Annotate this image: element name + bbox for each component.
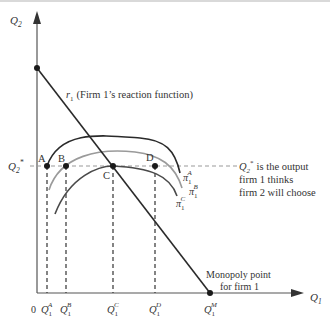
- point-a: A: [38, 153, 50, 169]
- svg-text:D: D: [146, 152, 154, 163]
- svg-text:C: C: [103, 170, 110, 181]
- reaction-intercept-dot: [34, 65, 40, 71]
- x-tick-qm: Q1M: [204, 301, 218, 318]
- isoprofit-label-b: π1B: [189, 183, 199, 200]
- diagram-canvas: Q2 Q1 0 Q2* Q2*is the output firm 1 thin…: [0, 0, 330, 324]
- x-axis: [37, 289, 304, 297]
- svg-text:A: A: [38, 153, 46, 164]
- svg-text:B: B: [58, 153, 65, 164]
- monopoly-point-dot: [207, 290, 213, 296]
- svg-text:firm 2 will choose: firm 2 will choose: [239, 187, 316, 198]
- x-tick-qb: Q1B: [60, 301, 72, 318]
- x-tick-qd: Q1D: [149, 301, 161, 318]
- svg-text:Q2*is the output: Q2*is the output: [239, 159, 309, 175]
- reaction-function-label: r1(Firm 1’s reaction function): [66, 89, 193, 103]
- svg-text:firm 1 thinks: firm 1 thinks: [239, 174, 293, 185]
- origin-label: 0: [31, 304, 36, 315]
- isoprofit-label-a: π1A: [183, 169, 193, 186]
- y-axis-arrow-icon: [33, 11, 41, 24]
- isoprofit-label-c: π1C: [176, 195, 186, 212]
- x-tick-qc: Q1C: [107, 301, 119, 318]
- y-axis-label: Q2: [10, 14, 22, 29]
- x-axis-label: Q1: [310, 291, 322, 306]
- x-axis-arrow-icon: [291, 289, 304, 297]
- point-b: B: [58, 153, 69, 169]
- q2-star-note: Q2*is the output firm 1 thinks firm 2 wi…: [239, 159, 316, 198]
- y-axis: [33, 11, 41, 293]
- monopoly-label-line1: Monopoly point: [206, 269, 271, 280]
- x-tick-qa: Q1A: [41, 301, 53, 318]
- drop-lines: [47, 166, 155, 293]
- monopoly-label-line2: for firm 1: [220, 281, 259, 292]
- isoprofit-curve-c: [55, 166, 177, 214]
- q2-star-axis-label: Q2*: [8, 158, 24, 175]
